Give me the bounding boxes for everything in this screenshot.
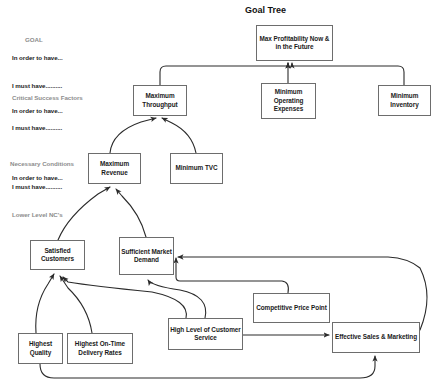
node-label: Max Profitability Now & in the Future bbox=[258, 35, 331, 52]
node-competitive-price-point[interactable]: Competitive Price Point bbox=[253, 293, 330, 323]
annotation-nc-in-order: In order to have... bbox=[12, 174, 63, 181]
node-sufficient-market-demand[interactable]: Sufficient Market Demand bbox=[119, 237, 174, 275]
node-label: Highest Quality bbox=[20, 340, 61, 357]
edge-tvc-to-throughput bbox=[162, 118, 196, 153]
node-max-profitability[interactable]: Max Profitability Now & in the Future bbox=[256, 25, 333, 61]
edge-throughput-to-profitability bbox=[160, 63, 288, 85]
edge-demand-to-revenue bbox=[116, 189, 146, 237]
edge-service-to-satisfied bbox=[63, 277, 186, 318]
node-satisfied-customers[interactable]: Satisfied Customers bbox=[30, 240, 85, 270]
node-label: Minimum TVC bbox=[175, 164, 217, 172]
node-label: Effective Sales & Marketing bbox=[335, 333, 417, 341]
node-effective-sales-marketing[interactable]: Effective Sales & Marketing bbox=[332, 322, 420, 353]
goal-tree-diagram: Goal Tree bbox=[0, 0, 444, 391]
node-label: High Level of Customer Service bbox=[170, 326, 241, 343]
edge-delivery-to-satisfied bbox=[60, 276, 92, 333]
annotation-nc-i-must-have: I must have.......... bbox=[12, 183, 62, 190]
node-label: Highest On-Time Delivery Rates bbox=[69, 340, 131, 357]
node-minimum-tvc[interactable]: Minimum TVC bbox=[170, 153, 223, 184]
node-label: Minimum Inventory bbox=[380, 92, 429, 109]
annotation-csf-i-must-have: I must have.......... bbox=[12, 124, 62, 131]
edge-inventory-to-profitability bbox=[292, 63, 404, 85]
node-maximum-revenue[interactable]: Maximum Revenue bbox=[88, 153, 141, 184]
node-highest-on-time-delivery-rates[interactable]: Highest On-Time Delivery Rates bbox=[67, 333, 133, 364]
node-label: Satisfied Customers bbox=[32, 247, 83, 264]
annotation-csf-label: Critical Success Factors bbox=[12, 94, 83, 101]
edge-price-to-demand bbox=[176, 258, 288, 293]
edge-quality-to-satisfied bbox=[36, 274, 54, 333]
annotation-goal-label: GOAL bbox=[25, 36, 43, 43]
annotation-lower-nc-label: Lower Level NC's bbox=[12, 211, 63, 218]
edge-service-to-demand bbox=[148, 280, 206, 318]
node-highest-quality[interactable]: Highest Quality bbox=[18, 333, 63, 364]
node-label: Sufficient Market Demand bbox=[121, 248, 172, 265]
node-label: Competitive Price Point bbox=[256, 304, 327, 312]
node-maximum-throughput[interactable]: Maximum Throughput bbox=[133, 85, 187, 116]
node-high-level-of-customer-service[interactable]: High Level of Customer Service bbox=[168, 318, 243, 350]
node-label: Maximum Revenue bbox=[90, 160, 139, 177]
edge-revenue-to-throughput bbox=[110, 118, 156, 153]
node-label: Maximum Throughput bbox=[135, 92, 185, 109]
node-minimum-inventory[interactable]: Minimum Inventory bbox=[378, 85, 431, 116]
annotation-nc-label: Necessary Conditions bbox=[10, 160, 74, 167]
node-label: Minimum Operating Expenses bbox=[263, 88, 314, 113]
annotation-csf-in-order: In order to have... bbox=[12, 107, 63, 114]
edge-satisfied-to-revenue bbox=[58, 187, 110, 240]
annotation-goal-i-must-have: I must have.......... bbox=[12, 82, 62, 89]
annotation-goal-in-order: In order to have... bbox=[12, 54, 63, 61]
node-minimum-operating-expenses[interactable]: Minimum Operating Expenses bbox=[261, 83, 316, 119]
page-title: Goal Tree bbox=[245, 5, 286, 15]
